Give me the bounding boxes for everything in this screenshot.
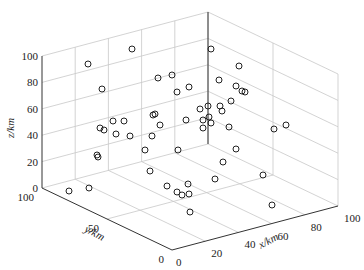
x-axis-label: x/km bbox=[255, 230, 280, 251]
data-point bbox=[233, 83, 239, 89]
data-point bbox=[220, 159, 226, 165]
grid-line bbox=[42, 91, 208, 135]
data-point bbox=[152, 111, 158, 117]
tick-label: 40 bbox=[27, 129, 39, 141]
tick-label: 100 bbox=[18, 191, 35, 203]
data-point bbox=[216, 77, 222, 83]
data-point bbox=[66, 188, 72, 194]
tick-label: 100 bbox=[22, 50, 39, 62]
data-point bbox=[179, 192, 185, 198]
data-point bbox=[186, 84, 192, 90]
data-point bbox=[212, 176, 218, 182]
data-point bbox=[95, 154, 101, 160]
data-point bbox=[113, 131, 119, 137]
tick-label: 80 bbox=[311, 221, 323, 233]
grid-lines bbox=[42, 12, 338, 241]
grid-line bbox=[42, 38, 208, 82]
data-point bbox=[271, 126, 277, 132]
tick-label: 0 bbox=[159, 253, 165, 265]
data-point bbox=[233, 146, 239, 152]
y-axis-line bbox=[42, 188, 172, 250]
data-point bbox=[110, 118, 116, 124]
data-point bbox=[147, 168, 153, 174]
grid-line bbox=[42, 12, 208, 56]
tick-label: 0 bbox=[176, 256, 182, 268]
data-point bbox=[183, 117, 189, 123]
data-point bbox=[206, 114, 212, 120]
data-point bbox=[186, 191, 192, 197]
tick-label: 40 bbox=[244, 238, 256, 250]
data-point bbox=[197, 106, 203, 112]
grid-line bbox=[42, 65, 208, 109]
tick-label: 20 bbox=[27, 156, 39, 168]
tick-label: 60 bbox=[27, 103, 39, 115]
data-point bbox=[208, 46, 214, 52]
data-point bbox=[129, 46, 135, 52]
data-point bbox=[200, 117, 206, 123]
data-point bbox=[219, 108, 225, 114]
data-point bbox=[121, 118, 127, 124]
data-point bbox=[164, 183, 170, 189]
data-point bbox=[283, 122, 289, 128]
tick-labels: 020406080100050100020406080100 bbox=[18, 50, 362, 268]
tick-label: 100 bbox=[344, 212, 361, 224]
tick-label: 20 bbox=[211, 247, 223, 259]
y-axis-label: y/km bbox=[82, 222, 107, 243]
data-point bbox=[142, 147, 148, 153]
data-point bbox=[260, 172, 266, 178]
data-point bbox=[157, 122, 163, 128]
data-points bbox=[66, 46, 289, 215]
axis-frame bbox=[42, 12, 338, 250]
z-axis-label: z/km bbox=[4, 118, 16, 139]
data-point bbox=[269, 202, 275, 208]
data-point bbox=[85, 61, 91, 67]
scatter-3d-chart: 020406080100050100020406080100 z/km y/km… bbox=[0, 0, 364, 270]
data-point bbox=[99, 86, 105, 92]
data-point bbox=[208, 120, 214, 126]
tick-label: 80 bbox=[27, 76, 39, 88]
data-point bbox=[200, 125, 206, 131]
data-point bbox=[236, 63, 242, 69]
data-point bbox=[149, 133, 155, 139]
data-point bbox=[187, 209, 193, 215]
